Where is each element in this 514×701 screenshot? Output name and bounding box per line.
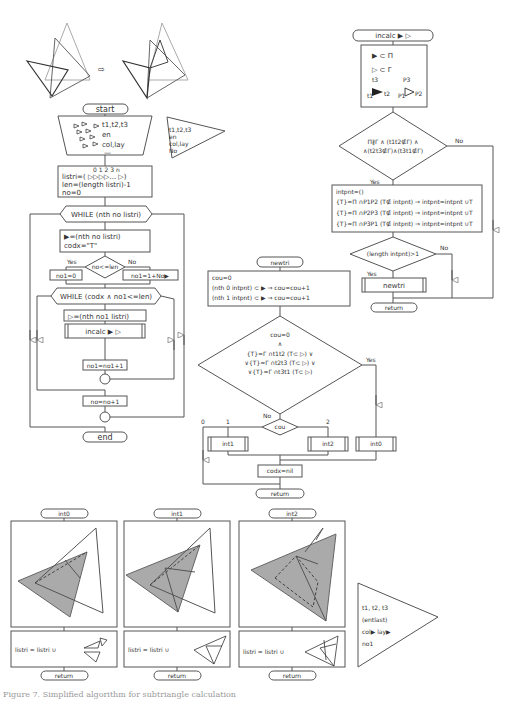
svg-text:{T}=Γ ∩t1t2 (T⊂ ▷) ∨: {T}=Γ ∩t1t2 (T⊂ ▷) ∨ (247, 350, 313, 357)
svg-text:no=0: no=0 (62, 189, 81, 197)
svg-text:Π∦Γ ∧ (t1t2∉Γ) ∧: Π∦Γ ∧ (t1t2∉Γ) ∧ (368, 138, 419, 146)
svg-text:{T}=Π ∩P1P2 (T∉ intpnt) ⇒ int: {T}=Π ∩P1P2 (T∉ intpnt) ⇒ intpnt=intpnt … (336, 198, 473, 206)
svg-text:(entlast): (entlast) (362, 616, 387, 623)
svg-text:t1,t2,t3: t1,t2,t3 (102, 121, 128, 129)
figure-caption: Figure 7. Simplified algorithm for subtr… (3, 690, 236, 699)
svg-text:▶=(nth no listri): ▶=(nth no listri) (64, 233, 121, 241)
svg-text:P1: P1 (398, 92, 406, 99)
svg-text:no<=len: no<=len (92, 263, 119, 270)
svg-text:incalc ▶ ▷: incalc ▶ ▷ (375, 32, 411, 40)
top-illustration-after (123, 23, 188, 98)
svg-text:end: end (97, 433, 112, 442)
svg-text:return: return (271, 490, 290, 497)
output-triangle (358, 583, 438, 667)
svg-text:0 1 2 3 n: 0 1 2 3 n (93, 166, 120, 173)
svg-text:newtri: newtri (271, 259, 290, 266)
svg-text:2: 2 (326, 418, 330, 425)
svg-text:codx=nil: codx=nil (267, 467, 294, 474)
svg-text:intpnt=(): intpnt=() (336, 188, 364, 196)
svg-text:return: return (168, 672, 187, 679)
svg-text:t2: t2 (384, 90, 390, 97)
svg-text:cou=0: cou=0 (212, 274, 232, 281)
svg-text:col,lay: col,lay (102, 141, 125, 149)
svg-text:Yes: Yes (369, 178, 380, 185)
svg-text:return: return (55, 672, 74, 679)
svg-text:newtri: newtri (383, 282, 405, 290)
loop-junction-2 (100, 374, 110, 384)
svg-text:WHILE (codx ∧ no1<=len): WHILE (codx ∧ no1<=len) (60, 293, 152, 301)
svg-text:No: No (263, 412, 271, 419)
svg-text:∧(t2t3∉Γ)∧(t3t1∉Γ): ∧(t2t3∉Γ)∧(t3t1∉Γ) (363, 147, 423, 154)
svg-text:No: No (440, 244, 448, 251)
svg-text:cou: cou (275, 423, 286, 430)
svg-text:int2: int2 (322, 440, 334, 447)
svg-text:∨{T}=Γ ∩t2t3 (T⊂ ▷) ∨: ∨{T}=Γ ∩t2t3 (T⊂ ▷) ∨ (245, 359, 316, 366)
svg-text:∨{T}=Γ ∩t3t1 (T⊂ ▷): ∨{T}=Γ ∩t3t1 (T⊂ ▷) (248, 368, 313, 375)
svg-text:Yes: Yes (365, 356, 376, 363)
svg-text:(length intpnt)>1: (length intpnt)>1 (367, 250, 420, 258)
svg-text:int1: int1 (171, 510, 183, 517)
svg-text:∧: ∧ (278, 340, 282, 347)
svg-text:{T}=Π ∩P3P1 (T∉ intpnt) ⇒ int: {T}=Π ∩P3P1 (T∉ intpnt) ⇒ intpnt=intpnt … (336, 220, 473, 228)
svg-text:cou=0: cou=0 (270, 331, 290, 338)
svg-text:en: en (102, 131, 111, 139)
svg-text:return: return (283, 672, 302, 679)
svg-text:int2: int2 (286, 510, 298, 517)
svg-text:(nth 0 intpnt) ⊂ ▶ ⇒ cou=cou: (nth 0 intpnt) ⊂ ▶ ⇒ cou=cou+1 (212, 284, 310, 292)
svg-text:No: No (169, 147, 177, 154)
loop-junction-1 (100, 412, 110, 422)
svg-text:en: en (169, 133, 177, 140)
svg-text:no1=no1+1: no1=no1+1 (87, 362, 124, 369)
svg-text:start: start (96, 105, 115, 114)
svg-text:t3: t3 (372, 76, 378, 83)
svg-text:1: 1 (226, 418, 230, 425)
svg-text:P2: P2 (415, 90, 423, 97)
svg-text:return: return (385, 304, 404, 311)
svg-text:▷=(nth no1 listri): ▷=(nth no1 listri) (68, 313, 129, 321)
svg-text:{T}=Π ∩P2P3 (T∉ intpnt) ⇒ int: {T}=Π ∩P2P3 (T∉ intpnt) ⇒ intpnt=intpnt … (336, 209, 473, 217)
incalc-condition (339, 112, 447, 180)
svg-text:no1=1+No▶: no1=1+No▶ (131, 272, 169, 279)
svg-text:codx="T": codx="T" (64, 242, 97, 250)
transform-arrow-icon: ⇨ (98, 65, 105, 74)
svg-text:▶ ⊂ Π: ▶ ⊂ Π (372, 52, 393, 60)
svg-text:Yes: Yes (366, 270, 377, 277)
svg-text:no1: no1 (362, 640, 373, 647)
svg-text:incalc ▶ ▷: incalc ▶ ▷ (85, 328, 121, 336)
svg-text:listri = listri ∪: listri = listri ∪ (243, 648, 284, 655)
top-illustration-before (27, 23, 90, 98)
svg-text:listri = listri ∪: listri = listri ∪ (128, 646, 169, 653)
svg-text:int0: int0 (58, 510, 70, 517)
svg-text:no=no+1: no=no+1 (91, 398, 120, 405)
svg-text:WHILE (nth no listri): WHILE (nth no listri) (71, 211, 141, 219)
svg-text:0: 0 (201, 418, 205, 425)
svg-text:▷ ⊂ Γ: ▷ ⊂ Γ (372, 66, 392, 74)
svg-text:listri = listri ∪: listri = listri ∪ (15, 646, 56, 653)
svg-text:P3: P3 (403, 76, 411, 83)
svg-text:len=(length listri)-1: len=(length listri)-1 (62, 181, 131, 189)
svg-text:int0: int0 (370, 440, 382, 447)
svg-text:(nth 1 intpnt) ⊂ ▶ ⇒ cou=cou: (nth 1 intpnt) ⊂ ▶ ⇒ cou=cou+1 (212, 294, 310, 302)
svg-text:No: No (128, 258, 136, 265)
svg-text:t1,t2,t3: t1,t2,t3 (169, 126, 192, 133)
svg-text:t1, t2, t3: t1, t2, t3 (362, 604, 388, 611)
svg-text:Yes: Yes (66, 258, 77, 265)
svg-text:No: No (455, 137, 463, 144)
svg-text:listri=( ▷▷▷▷... ▷): listri=( ▷▷▷▷... ▷) (62, 173, 127, 181)
flowchart-canvas: ⇨ start t1,t2,t3 en col,lay — t1,t2,t3 e… (0, 0, 514, 701)
svg-text:col▶ lay▶: col▶ lay▶ (362, 628, 391, 636)
svg-text:no1=0: no1=0 (56, 272, 76, 279)
svg-text:int1: int1 (222, 440, 234, 447)
